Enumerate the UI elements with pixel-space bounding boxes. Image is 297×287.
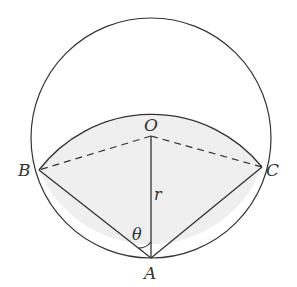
point-label-b: B <box>17 160 31 180</box>
geometry-diagram: O B C A r θ <box>0 0 297 287</box>
radius-label: r <box>154 185 163 204</box>
point-label-o: O <box>144 115 158 135</box>
angle-label-theta: θ <box>132 225 142 244</box>
point-label-c: C <box>266 160 279 180</box>
point-label-a: A <box>142 263 156 283</box>
